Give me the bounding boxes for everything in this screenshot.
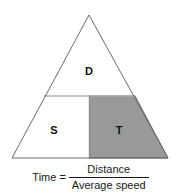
formula-fraction: Distance Average speed [69, 163, 149, 191]
formula-equals-sign: = [59, 171, 65, 184]
formula-denominator: Average speed [69, 178, 149, 192]
speed-distance-time-triangle-figure: D S T Time = Distance Average speed [0, 0, 181, 195]
region-label-speed: S [44, 125, 64, 136]
region-label-time: T [109, 125, 129, 136]
time-formula: Time = Distance Average speed [0, 163, 181, 191]
formula-left-side: Time [32, 171, 56, 184]
region-label-distance: D [79, 66, 99, 77]
formula-numerator: Distance [84, 163, 133, 177]
